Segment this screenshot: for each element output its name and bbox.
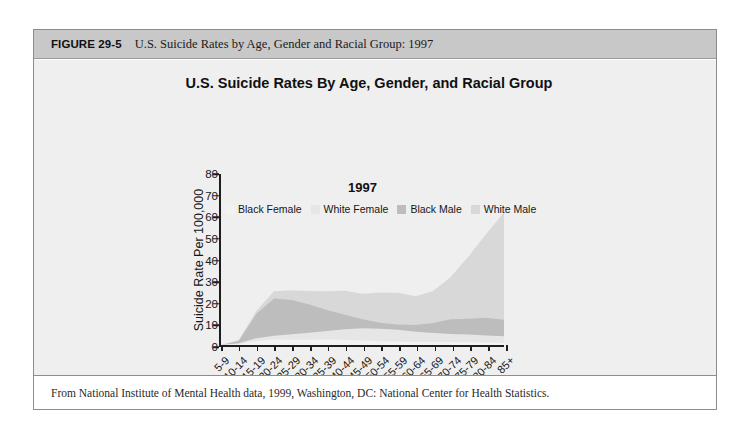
figure-header-band: FIGURE 29-5 U.S. Suicide Rates by Age, G… — [34, 30, 716, 59]
x-tick-mark — [488, 345, 490, 351]
legend-label: White Female — [324, 203, 389, 215]
legend-item: Black Male — [397, 203, 461, 215]
legend-swatch-icon — [311, 205, 320, 214]
x-tick-mark — [257, 345, 259, 351]
legend-label: Black Male — [410, 203, 461, 215]
chart-legend: Black FemaleWhite FemaleBlack MaleWhite … — [225, 203, 508, 215]
legend-item: White Male — [471, 203, 537, 215]
area-chart-svg — [221, 174, 504, 345]
x-tick-mark — [328, 345, 330, 351]
chart-title: U.S. Suicide Rates By Age, Gender, and R… — [134, 74, 604, 93]
x-tick-mark — [381, 345, 383, 351]
x-tick-mark — [417, 345, 419, 351]
legend-swatch-icon — [397, 205, 406, 214]
x-tick-mark — [364, 345, 366, 351]
legend-item: Black Female — [225, 203, 302, 215]
x-tick-mark — [274, 345, 276, 351]
x-tick-mark — [310, 345, 312, 351]
x-tick-mark — [435, 345, 437, 351]
plot-area: 1997 Black FemaleWhite FemaleBlack MaleW… — [219, 174, 504, 347]
x-tick-label: 85+ — [495, 354, 517, 375]
chart-plate: U.S. Suicide Rates By Age, Gender, and R… — [34, 60, 716, 375]
x-tick-mark — [453, 345, 455, 351]
x-tick-mark — [506, 345, 508, 351]
figure-number: FIGURE 29-5 — [51, 38, 122, 50]
figure-footer: From National Institute of Mental Health… — [34, 375, 716, 409]
legend-item: White Female — [311, 203, 389, 215]
legend-swatch-icon — [225, 205, 234, 214]
x-tick-mark — [470, 345, 472, 351]
figure-source-note: From National Institute of Mental Health… — [51, 387, 549, 399]
legend-year-annotation: 1997 — [221, 180, 504, 195]
x-tick-mark — [221, 345, 223, 351]
legend-label: White Male — [484, 203, 537, 215]
x-tick-mark — [292, 345, 294, 351]
page-root: FIGURE 29-5 U.S. Suicide Rates by Age, G… — [0, 0, 750, 439]
legend-label: Black Female — [238, 203, 302, 215]
x-tick-mark — [239, 345, 241, 351]
legend-swatch-icon — [471, 205, 480, 214]
figure-caption: U.S. Suicide Rates by Age, Gender and Ra… — [135, 37, 434, 52]
figure-box: FIGURE 29-5 U.S. Suicide Rates by Age, G… — [33, 29, 717, 410]
x-tick-mark — [346, 345, 348, 351]
x-tick-mark — [399, 345, 401, 351]
plot-wrapper: Suicide Rate Per 100,000 010203040506070… — [186, 172, 506, 348]
